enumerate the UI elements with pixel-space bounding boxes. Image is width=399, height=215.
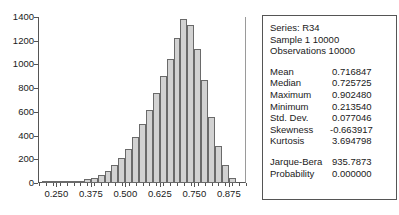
stat-value: 0.902480 — [330, 89, 396, 101]
x-axis-minor-tick-mark — [163, 183, 164, 186]
stat-value: 3.694798 — [330, 135, 396, 147]
x-axis-tick-mark — [194, 183, 195, 187]
stats-tests-block: Jarque-Bera935.7873Probability0.000000 — [270, 156, 396, 179]
y-axis-tick-label: 600 — [2, 107, 34, 117]
histogram-bar — [215, 146, 222, 183]
y-axis-tick-mark — [34, 183, 38, 184]
histogram-bars — [39, 17, 246, 183]
histogram-bar — [201, 80, 208, 183]
stat-value: 0.716847 — [330, 66, 396, 78]
x-axis-minor-tick-mark — [239, 183, 240, 186]
y-axis-tick-mark — [34, 41, 38, 42]
stat-label: Probability — [270, 168, 330, 180]
stats-spacer-1 — [270, 57, 396, 66]
y-axis-tick-label: 400 — [2, 131, 34, 141]
histogram-bar — [208, 117, 215, 183]
y-axis-labels: 0200400600800100012001400 — [0, 0, 34, 215]
stat-label: Maximum — [270, 89, 330, 101]
y-axis-tick-mark — [34, 112, 38, 113]
histogram-bar — [105, 171, 112, 183]
x-axis-tick-label: 0.625 — [148, 188, 172, 199]
plot-area — [39, 17, 246, 183]
x-axis-tick-mark — [56, 183, 57, 187]
x-axis-minor-tick-mark — [198, 183, 199, 186]
x-axis-minor-tick-mark — [191, 183, 192, 186]
stat-label: Kurtosis — [270, 135, 330, 147]
stat-label: Skewness — [270, 124, 330, 136]
histogram-stats-figure: 0200400600800100012001400 0.2500.3750.50… — [0, 0, 399, 215]
x-axis-minor-tick-mark — [80, 183, 81, 186]
x-axis-minor-tick-mark — [225, 183, 226, 186]
y-axis-tick-mark — [34, 159, 38, 160]
stats-moments-block: Mean0.716847Median0.725725Maximum0.90248… — [270, 66, 396, 147]
x-axis-tick-mark — [91, 183, 92, 187]
stat-label: Std. Dev. — [270, 112, 330, 124]
x-axis-minor-tick-mark — [170, 183, 171, 186]
stats-spacer-2 — [270, 147, 396, 156]
x-axis-tick-label: 0.500 — [113, 188, 137, 199]
x-axis-minor-tick-mark — [74, 183, 75, 186]
histogram-bar — [146, 110, 153, 184]
histogram-bar — [180, 19, 187, 183]
stat-value: 935.7873 — [330, 156, 396, 168]
x-axis-minor-tick-mark — [205, 183, 206, 186]
x-axis-minor-tick-mark — [67, 183, 68, 186]
x-axis-minor-tick-mark — [46, 183, 47, 186]
x-axis-tick-label: 0.250 — [44, 188, 68, 199]
x-axis-minor-tick-mark — [94, 183, 95, 186]
x-axis-minor-tick-mark — [108, 183, 109, 186]
y-axis-tick-label: 800 — [2, 83, 34, 93]
x-axis-minor-tick-mark — [184, 183, 185, 186]
x-axis-minor-tick-mark — [212, 183, 213, 186]
stat-row: Maximum0.902480 — [270, 89, 396, 101]
x-axis-minor-tick-mark — [246, 183, 247, 186]
stat-test-row: Jarque-Bera935.7873 — [270, 156, 396, 168]
y-axis-tick-mark — [34, 64, 38, 65]
x-axis-tick-label: 0.750 — [182, 188, 206, 199]
stats-header-line: Series: R34 — [270, 22, 396, 34]
stat-row: Skewness-0.663917 — [270, 124, 396, 136]
histogram-bar — [153, 93, 160, 183]
y-axis-tick-label: 0 — [2, 178, 34, 188]
x-axis-minor-tick-mark — [39, 183, 40, 186]
histogram-bar — [118, 158, 125, 183]
stat-value: -0.663917 — [330, 124, 396, 136]
histogram-bar — [174, 38, 181, 183]
stat-test-row: Probability0.000000 — [270, 168, 396, 180]
y-axis-tick-mark — [34, 136, 38, 137]
x-axis-minor-tick-mark — [156, 183, 157, 186]
y-axis-tick-label: 1000 — [2, 59, 34, 69]
x-axis-tick-mark — [160, 183, 161, 187]
x-axis-tick-label: 0.375 — [79, 188, 103, 199]
stat-value: 0.000000 — [330, 168, 396, 180]
x-axis-minor-tick-mark — [87, 183, 88, 186]
x-axis-tick-mark — [125, 183, 126, 187]
stat-value: 0.077046 — [330, 112, 396, 124]
x-axis-minor-tick-mark — [129, 183, 130, 186]
x-axis-tick-mark — [229, 183, 230, 187]
stat-row: Kurtosis3.694798 — [270, 135, 396, 147]
y-axis-tick-label: 1400 — [2, 12, 34, 22]
y-axis-tick-mark — [34, 17, 38, 18]
histogram-bar — [139, 124, 146, 183]
x-axis-minor-tick-mark — [136, 183, 137, 186]
x-axis-minor-tick-mark — [218, 183, 219, 186]
stat-row: Median0.725725 — [270, 77, 396, 89]
histogram-bar — [167, 59, 174, 184]
histogram-bar — [125, 149, 132, 183]
x-axis-minor-tick-mark — [177, 183, 178, 186]
histogram-bar — [132, 137, 139, 183]
stat-label: Minimum — [270, 101, 330, 113]
x-axis-minor-tick-mark — [232, 183, 233, 186]
histogram-bar — [160, 76, 167, 183]
x-axis-tick-label: 0.875 — [217, 188, 241, 199]
y-axis-tick-label: 200 — [2, 154, 34, 164]
histogram-bar — [187, 25, 194, 183]
x-axis-minor-tick-mark — [149, 183, 150, 186]
y-axis-tick-mark — [34, 88, 38, 89]
histogram-bar — [111, 165, 118, 183]
stats-header-line: Sample 1 10000 — [270, 34, 396, 46]
histogram-bar — [194, 49, 201, 183]
x-axis-minor-tick-mark — [143, 183, 144, 186]
y-axis-tick-label: 1200 — [2, 36, 34, 46]
